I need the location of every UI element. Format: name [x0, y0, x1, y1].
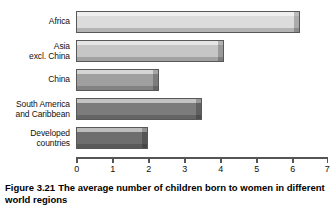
bar-end-cap [142, 128, 147, 148]
chart-row: Asia excl. China [0, 40, 331, 62]
bar-asia-excl-china [76, 40, 224, 62]
category-label-south-america-and-caribbean: South America and Caribbean [0, 100, 70, 119]
bar-shadow [77, 28, 299, 32]
bar-end-cap [294, 12, 299, 32]
figure-number: Figure 3.21 [5, 182, 55, 193]
category-label-asia-excl-china: Asia excl. China [0, 42, 70, 61]
x-axis-tick [292, 157, 294, 163]
bar-chart: Africa Asia excl. China China [0, 0, 331, 178]
figure-caption: Figure 3.21The average number of childre… [5, 182, 327, 205]
bar-africa [76, 11, 300, 33]
chart-row: China [0, 69, 331, 91]
x-axis: 0 1 2 3 4 5 6 7 [76, 157, 328, 159]
category-label-africa: Africa [0, 17, 70, 27]
bar-shadow [77, 115, 201, 119]
bar-developed-countries [76, 127, 148, 149]
x-axis-tick [256, 157, 258, 163]
bar-highlight [77, 70, 158, 74]
bar-china [76, 69, 159, 91]
bar-shadow [77, 86, 158, 90]
bar-shadow [77, 57, 223, 61]
bar-south-america-and-caribbean [76, 98, 202, 120]
category-label-developed-countries: Developed countries [0, 129, 70, 148]
bar-shadow [77, 144, 147, 148]
bar-highlight [77, 128, 147, 132]
figure-container: Africa Asia excl. China China [0, 0, 331, 210]
x-axis-tick-label: 3 [177, 164, 193, 174]
bar-highlight [77, 41, 223, 45]
bar-highlight [77, 12, 299, 16]
x-axis-tick [76, 157, 78, 163]
x-axis-tick [220, 157, 222, 163]
bar-end-cap [196, 99, 201, 119]
x-axis-tick-label: 2 [141, 164, 157, 174]
x-axis-tick [327, 157, 329, 163]
x-axis-tick-label: 1 [105, 164, 121, 174]
x-axis-tick [112, 157, 114, 163]
x-axis-tick-label: 0 [69, 164, 85, 174]
x-axis-tick-label: 6 [285, 164, 301, 174]
bar-end-cap [153, 70, 158, 90]
bar-highlight [77, 99, 201, 103]
chart-row: Africa [0, 11, 331, 33]
chart-row: Developed countries [0, 127, 331, 149]
chart-row: South America and Caribbean [0, 98, 331, 120]
x-axis-tick [184, 157, 186, 163]
x-axis-tick-label: 7 [319, 164, 331, 174]
x-axis-tick-label: 5 [249, 164, 265, 174]
x-axis-tick [148, 157, 150, 163]
category-label-china: China [0, 75, 70, 85]
x-axis-tick-label: 4 [213, 164, 229, 174]
bar-end-cap [218, 41, 223, 61]
